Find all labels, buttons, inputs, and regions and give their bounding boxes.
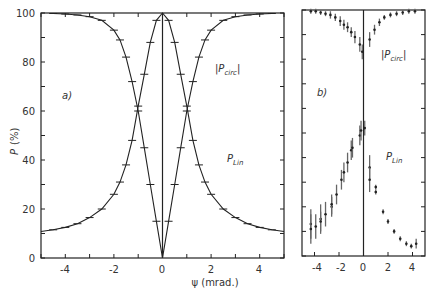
b-xtick-label: 0: [360, 262, 366, 273]
data-point: [401, 11, 404, 14]
a-y-axis-label: P (%): [9, 128, 20, 155]
data-point: [383, 16, 386, 19]
data-point: [346, 161, 349, 164]
data-point: [310, 10, 313, 13]
data-point: [319, 11, 322, 14]
data-point: [393, 230, 396, 233]
data-point: [378, 21, 381, 24]
data-point: [350, 31, 353, 34]
data-point: [368, 178, 371, 181]
data-point: [368, 38, 371, 41]
data-point: [339, 20, 342, 23]
data-point: [314, 225, 317, 228]
panel-b-label: b): [317, 87, 327, 98]
polarization-figure: 0 20 40 60 80 100 -4 -2 0 2 4 ψ (mrad.) …: [0, 0, 436, 290]
a-xtick-label: 4: [256, 264, 262, 275]
data-point: [329, 14, 332, 17]
data-point: [405, 242, 408, 245]
data-point: [343, 171, 346, 174]
panel-a-plot: 0 20 40 60 80 100 -4 -2 0 2 4 ψ (mrad.) …: [9, 8, 284, 288]
data-point: [319, 220, 322, 223]
a-y-axis-label-main: P: [9, 148, 20, 155]
b-lin-label: PLin: [386, 151, 402, 165]
a-xtick-label: -4: [60, 264, 70, 275]
a-ytick-label: 80: [22, 57, 35, 68]
a-circ-label: |Pcirc|: [215, 63, 240, 77]
data-point: [354, 36, 357, 39]
panel-b-plot: -4 -2 0 2 4 b) |Pcirc| PLin: [302, 9, 425, 273]
data-point: [363, 127, 366, 130]
a-ytick-label: 100: [16, 8, 35, 19]
data-point: [399, 237, 402, 240]
data-point: [324, 12, 327, 15]
data-point: [330, 203, 333, 206]
data-point: [389, 14, 392, 17]
data-point: [373, 28, 376, 31]
data-point: [343, 23, 346, 26]
panel-a-label: a): [62, 90, 72, 101]
data-point: [340, 178, 343, 181]
data-point: [360, 129, 363, 132]
data-point: [334, 16, 337, 19]
a-x-axis-label: ψ (mrad.): [191, 277, 238, 288]
data-point: [414, 10, 417, 13]
data-point: [395, 12, 398, 15]
data-point: [359, 43, 362, 46]
a-ytick-label: 20: [22, 204, 35, 215]
data-point: [324, 213, 327, 216]
data-point: [410, 245, 413, 248]
a-xtick-label: 2: [208, 264, 214, 275]
data-point: [382, 210, 385, 213]
data-point: [387, 220, 390, 223]
b-xtick-label: -2: [336, 262, 346, 273]
a-xtick-label: 0: [159, 264, 165, 275]
data-point: [335, 193, 338, 196]
data-point: [346, 26, 349, 29]
data-point: [374, 191, 377, 194]
b-xtick-label: -4: [312, 262, 322, 273]
b-xtick-label: 2: [385, 262, 391, 273]
b-circ-label: |Pcirc|: [381, 49, 406, 63]
data-point: [314, 10, 317, 13]
data-point: [415, 242, 418, 245]
a-y-axis-label-unit: (%): [9, 128, 20, 145]
a-xtick-label: -2: [109, 264, 119, 275]
data-point: [374, 186, 377, 189]
b-xtick-label: 4: [409, 262, 415, 273]
a-ytick-label: 0: [29, 253, 35, 264]
data-point: [408, 10, 411, 13]
a-lin-label: PLin: [227, 153, 243, 167]
a-ytick-label: 60: [22, 106, 35, 117]
data-point: [361, 51, 364, 54]
data-point: [351, 146, 354, 149]
a-ytick-label: 40: [22, 155, 35, 166]
data-point: [310, 228, 313, 231]
